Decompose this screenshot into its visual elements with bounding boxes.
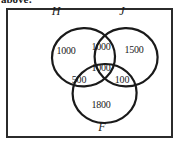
set-label-H: H (50, 4, 62, 19)
venn-diagram-screenshot: above: H J F 1000 1000 1500 1000 500 100… (0, 0, 185, 144)
clipped-caption: above: (0, 0, 185, 5)
region-count-H-and-J: 1000 (91, 41, 110, 52)
venn-circles-svg (8, 10, 171, 136)
region-count-J-only: 1500 (124, 44, 143, 55)
region-count-H-only: 1000 (56, 45, 75, 56)
region-count-J-and-F: 100 (115, 74, 129, 85)
region-count-H-and-J-and-F: 1000 (91, 62, 110, 73)
region-count-H-and-F: 500 (72, 74, 86, 85)
caption-text: above: (0, 0, 185, 5)
diagram-frame (6, 8, 173, 138)
set-label-J: J (116, 4, 128, 19)
region-count-F-only: 1800 (91, 99, 110, 110)
set-label-F: F (96, 120, 108, 135)
